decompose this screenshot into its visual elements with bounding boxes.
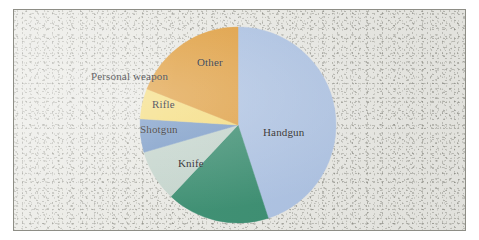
pie-label-knife: Knife [178, 157, 204, 169]
pie-chart-svg [14, 10, 467, 232]
figure-canvas: Handgun Knife Shotgun Rifle Personal wea… [0, 0, 479, 240]
pie-label-handgun: Handgun [263, 126, 304, 138]
pie-label-rifle: Rifle [152, 98, 175, 110]
pie-label-shotgun: Shotgun [140, 123, 178, 135]
pie-chart: Handgun Knife Shotgun Rifle Personal wea… [14, 10, 467, 232]
pie-label-other: Other [197, 56, 223, 68]
chart-plot-area: Handgun Knife Shotgun Rifle Personal wea… [13, 9, 466, 231]
pie-label-personal-weapon: Personal weapon [91, 70, 168, 82]
